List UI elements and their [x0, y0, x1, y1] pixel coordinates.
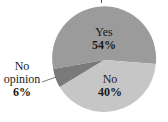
label-yes: Yes 54%	[84, 26, 124, 52]
label-yes-pct: 54%	[84, 39, 124, 52]
label-no-pct: 40%	[90, 86, 130, 99]
label-no: No 40%	[90, 73, 130, 99]
label-no-opinion: No opinion 6%	[0, 60, 44, 99]
label-no-opinion-pct: 6%	[0, 86, 44, 99]
leader-line	[42, 77, 56, 82]
